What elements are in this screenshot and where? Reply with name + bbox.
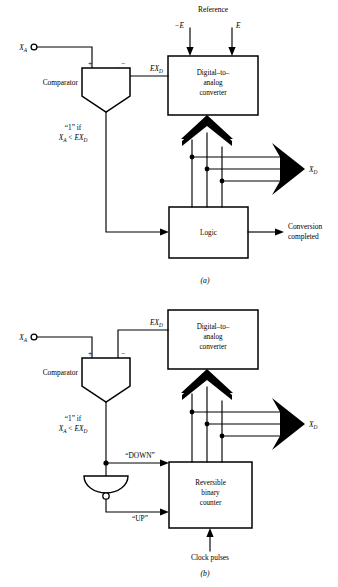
conversion-done-line1-a: Conversion bbox=[288, 222, 322, 231]
input-label-b: XA bbox=[18, 333, 28, 343]
comparator-note-line2-a: XA < EXD bbox=[58, 133, 88, 143]
input-terminal-b bbox=[31, 334, 37, 340]
ref-neg-arrow-a bbox=[186, 28, 193, 56]
counter-label-line2-b: binary bbox=[201, 489, 220, 497]
dac-label-line3-b: converter bbox=[199, 343, 227, 351]
up-arrowhead-b bbox=[160, 508, 169, 515]
dac-label-line2-b: analog bbox=[203, 333, 223, 341]
output-bus-label-a: XD bbox=[308, 165, 318, 175]
input-wire-a bbox=[38, 47, 93, 68]
comparator-plus-a: + bbox=[88, 59, 92, 68]
comparator-label-b: Comparator bbox=[43, 368, 79, 377]
inverter-gate-b bbox=[84, 476, 128, 493]
input-wire-b bbox=[38, 337, 93, 358]
conversion-done-arrowhead-a bbox=[275, 228, 284, 235]
comparator-shape-a bbox=[82, 68, 130, 112]
comparator-note-line1-b: “1” if bbox=[65, 414, 82, 423]
inverter-bubble-b bbox=[103, 493, 109, 499]
clock-label-b: Clock pulses bbox=[191, 553, 229, 562]
down-label-b: “DOWN” bbox=[125, 451, 155, 460]
bus-taps-a bbox=[190, 155, 280, 184]
comparator-minus-b: − bbox=[121, 349, 125, 358]
panel-tag-a: (a) bbox=[201, 276, 210, 285]
comparator-note-line1-a: “1” if bbox=[65, 123, 82, 132]
dac-label-line1-a: Digital–to– bbox=[197, 69, 230, 77]
ref-pos-arrow-a bbox=[228, 28, 235, 56]
comparator-plus-b: + bbox=[88, 349, 92, 358]
up-wire-b bbox=[106, 500, 163, 513]
output-bus-label-b: XD bbox=[308, 420, 318, 430]
panel-a: Reference −E E Digital–to– analog conver… bbox=[18, 5, 322, 285]
down-arrowhead-b bbox=[160, 459, 169, 466]
input-label-a: XA bbox=[18, 43, 28, 53]
feedback-label-a: EXD bbox=[149, 64, 163, 74]
clock-arrowhead-b bbox=[206, 528, 213, 537]
conversion-done-line2-a: completed bbox=[288, 232, 319, 241]
comparator-output-wire-a bbox=[106, 112, 163, 232]
comparator-note-line2-b: XA < EXD bbox=[58, 424, 88, 434]
dac-label-line3-a: converter bbox=[199, 89, 227, 97]
dac-label-line2-a: analog bbox=[203, 79, 223, 87]
bus-taps-b bbox=[190, 410, 280, 439]
dac-label-line1-b: Digital–to– bbox=[197, 323, 230, 331]
reference-label-a: Reference bbox=[198, 5, 229, 14]
digital-bus-b bbox=[181, 369, 233, 462]
ref-pos-label-a: E bbox=[235, 21, 241, 30]
input-terminal-a bbox=[31, 44, 37, 50]
panel-b: Digital–to– analog converter XA EXD + − … bbox=[18, 310, 317, 578]
up-label-b: “UP” bbox=[132, 514, 148, 523]
figure-root: Reference −E E Digital–to– analog conver… bbox=[0, 0, 338, 587]
counter-label-line3-b: counter bbox=[200, 499, 222, 507]
feedback-wire-b bbox=[118, 330, 168, 358]
comparator-label-a: Comparator bbox=[43, 78, 79, 87]
logic-label-a: Logic bbox=[200, 229, 217, 237]
adc-block-diagram: Reference −E E Digital–to– analog conver… bbox=[0, 0, 338, 587]
digital-bus-a bbox=[181, 115, 233, 207]
ref-neg-label-a: −E bbox=[174, 21, 184, 30]
panel-tag-b: (b) bbox=[201, 569, 210, 578]
counter-label-line1-b: Reversible bbox=[195, 479, 226, 487]
comparator-shape-b bbox=[82, 358, 130, 402]
comparator-minus-a: − bbox=[121, 59, 125, 68]
logic-input-arrowhead-a bbox=[160, 228, 169, 235]
feedback-label-b: EXD bbox=[149, 318, 163, 328]
